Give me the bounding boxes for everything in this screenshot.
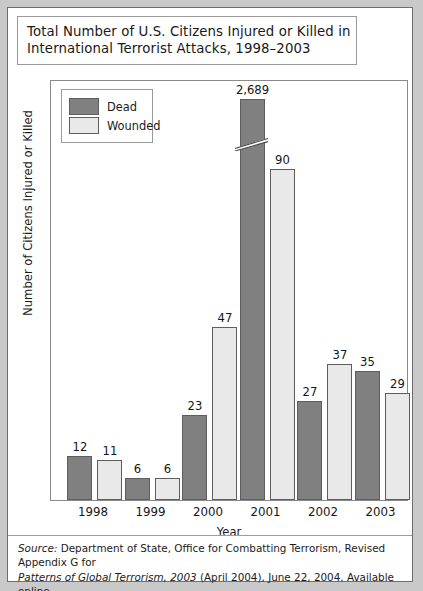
source-publication: Patterns of Global Terrorism, 2003 <box>18 571 197 583</box>
bar-wounded-2000[interactable] <box>212 327 237 500</box>
source-divider <box>8 535 412 536</box>
source-line-1: Source: Department of State, Office for … <box>18 541 402 570</box>
bar-group-1998: 1211 <box>65 81 122 500</box>
source-label: Source: <box>18 542 57 554</box>
x-tick-1999: 1999 <box>121 505 181 519</box>
bar-wounded-1999[interactable] <box>155 478 180 500</box>
bar-group-1999: 66 <box>123 81 180 500</box>
value-label-wounded-2003: 29 <box>375 377 421 391</box>
bar-group-2002: 2737 <box>295 81 352 500</box>
value-label-dead-2000: 23 <box>172 399 218 413</box>
plot-area: Dead Wounded 12116623472,6899027373529 <box>50 80 408 501</box>
bar-group-2001: 2,68990 <box>238 81 295 500</box>
source-note: Source: Department of State, Office for … <box>18 541 402 591</box>
bar-group-2000: 2347 <box>180 81 237 500</box>
bar-dead-1998[interactable] <box>67 456 92 500</box>
y-axis-label: Number of Citizens Injured or Killed <box>21 33 35 393</box>
figure-card: Total Number of U.S. Citizens Injured or… <box>7 7 413 582</box>
chart-title-line-1: Total Number of U.S. Citizens Injured or… <box>27 23 348 40</box>
chart-title-box: Total Number of U.S. Citizens Injured or… <box>17 16 357 65</box>
x-axis-label: Year <box>50 525 408 539</box>
chart-title-line-2: International Terrorist Attacks, 1998–20… <box>27 40 348 57</box>
x-tick-2003: 2003 <box>351 505 411 519</box>
bar-group-2003: 3529 <box>353 81 410 500</box>
bar-wounded-2003[interactable] <box>385 393 410 500</box>
source-line-1-rest: Department of State, Office for Combatti… <box>18 542 385 568</box>
value-label-dead-2003: 35 <box>345 355 391 369</box>
bar-dead-2002[interactable] <box>297 401 322 500</box>
bar-wounded-2001[interactable] <box>270 169 295 500</box>
value-label-dead-2001: 2,689 <box>230 83 276 97</box>
x-tick-2000: 2000 <box>178 505 238 519</box>
bar-series-container: 12116623472,6899027373529 <box>51 81 407 500</box>
bar-dead-2000[interactable] <box>182 415 207 500</box>
x-tick-2002: 2002 <box>293 505 353 519</box>
x-tick-1998: 1998 <box>63 505 123 519</box>
x-tick-2001: 2001 <box>236 505 296 519</box>
value-label-dead-2002: 27 <box>287 385 333 399</box>
source-line-2: Patterns of Global Terrorism, 2003 (Apri… <box>18 570 402 591</box>
bar-dead-1999[interactable] <box>125 478 150 500</box>
axis-break-marker <box>234 135 269 147</box>
